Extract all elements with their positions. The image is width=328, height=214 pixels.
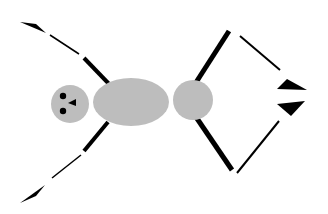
head-circle: [51, 85, 89, 123]
eye-icon: [60, 108, 66, 114]
eye-icon: [60, 93, 66, 99]
upper-antenna-tip-icon: [20, 22, 46, 33]
upper-right-leg: [195, 31, 307, 90]
upper-antenna-thin-segment: [50, 35, 79, 54]
upper-antenna-thick-segment: [84, 58, 111, 86]
lower-leg-foot-icon: [277, 101, 305, 116]
lower-left-antenna: [20, 122, 108, 203]
insect-diagram: [0, 0, 328, 214]
lower-antenna-thick-segment: [84, 122, 108, 151]
lower-leg-thick-segment: [196, 117, 232, 170]
upper-left-antenna: [20, 22, 111, 86]
upper-leg-thin-segment: [240, 36, 280, 70]
lower-antenna-tip-icon: [20, 185, 45, 203]
head: [51, 85, 89, 123]
upper-leg-thick-segment: [195, 31, 229, 84]
thorax: [93, 78, 169, 126]
abdomen: [173, 80, 213, 120]
upper-leg-foot-icon: [277, 79, 307, 90]
lower-right-leg: [196, 101, 305, 173]
lower-antenna-thin-segment: [52, 155, 81, 178]
lower-leg-thin-segment: [237, 121, 279, 173]
